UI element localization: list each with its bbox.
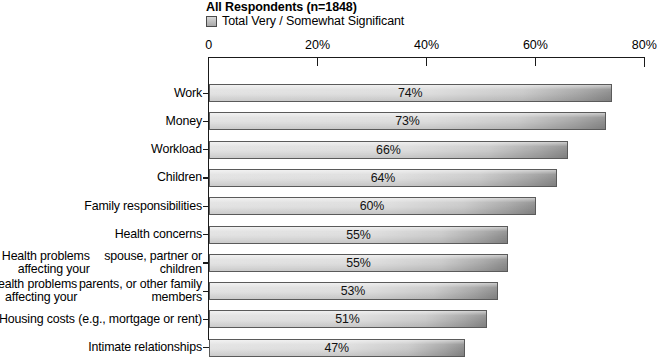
category-label: Intimate relationships — [0, 334, 202, 361]
category-label: Work — [0, 79, 202, 107]
category-label: Children — [0, 164, 202, 192]
x-axis-tick-label: 20% — [305, 38, 330, 52]
x-axis-tick-label: 80% — [632, 38, 657, 52]
bar-row: Intimate relationships47% — [0, 334, 656, 361]
chart-legend: Total Very / Somewhat Significant — [206, 14, 404, 28]
bar-rows: Work74%Money73%Workload66%Children64%Fam… — [0, 57, 656, 340]
bar-value-label: 60% — [209, 197, 536, 215]
bar-row: Family responsibilities60% — [0, 192, 656, 220]
category-label: Health problems affecting yourspouse, pa… — [0, 249, 202, 277]
bar-row: Housing costs (e.g., mortgage or rent)51… — [0, 305, 656, 333]
bar-value-label: 55% — [209, 226, 508, 244]
category-label: Money — [0, 107, 202, 135]
bar-row: Health problems affecting yourparents, o… — [0, 277, 656, 305]
bar-row: Money73% — [0, 107, 656, 135]
category-label: Family responsibilities — [0, 192, 202, 220]
chart-title: All Respondents (n=1848) — [206, 0, 506, 14]
bar-value-label: 47% — [209, 339, 465, 357]
x-axis-tick-label: 40% — [414, 38, 439, 52]
bar-value-label: 66% — [209, 141, 568, 159]
bar-row: Work74% — [0, 79, 656, 107]
bar-row: Health problems affecting yourspouse, pa… — [0, 249, 656, 277]
legend-label: Total Very / Somewhat Significant — [222, 14, 404, 28]
category-label: Housing costs (e.g., mortgage or rent) — [0, 305, 202, 333]
bar-row: Workload66% — [0, 136, 656, 164]
bar-value-label: 73% — [209, 112, 606, 130]
bar-value-label: 53% — [209, 282, 498, 300]
x-axis-tick-label: 60% — [523, 38, 548, 52]
x-axis-tick-label: 0 — [205, 38, 212, 52]
category-label: Health problems affecting yourparents, o… — [0, 277, 202, 305]
x-axis-tick-mark — [426, 57, 427, 66]
x-axis-tick-mark — [317, 57, 318, 66]
bar-row: Children64% — [0, 164, 656, 192]
bar-value-label: 64% — [209, 169, 557, 187]
legend-swatch-icon — [206, 16, 217, 27]
category-label: Health concerns — [0, 221, 202, 249]
bar-value-label: 74% — [209, 84, 612, 102]
bar-row: Health concerns55% — [0, 221, 656, 249]
x-axis-tick-labels: 020%40%60%80% — [0, 38, 656, 52]
category-label: Workload — [0, 136, 202, 164]
x-axis-tick-mark — [535, 57, 536, 66]
bar-value-label: 51% — [209, 310, 487, 328]
bar-value-label: 55% — [209, 254, 508, 272]
